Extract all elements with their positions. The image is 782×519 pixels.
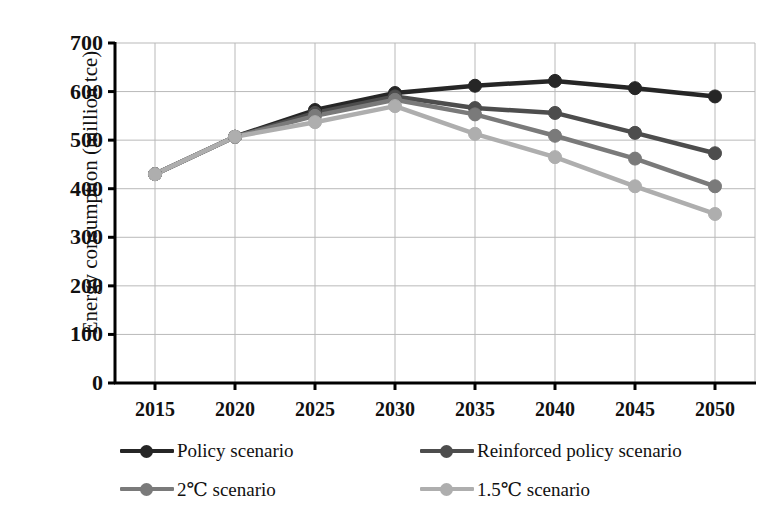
data-point <box>149 168 162 181</box>
legend-item[interactable]: Reinforced policy scenario <box>420 436 682 466</box>
data-point <box>709 180 722 193</box>
legend-label: 1.5℃ scenario <box>477 478 590 501</box>
data-point <box>629 82 642 95</box>
legend-item[interactable]: 1.5℃ scenario <box>420 474 590 504</box>
legend-marker-icon <box>140 445 153 458</box>
legend-marker-icon <box>440 445 453 458</box>
chart-legend: Policy scenarioReinforced policy scenari… <box>120 436 760 514</box>
legend-label: Reinforced policy scenario <box>477 440 682 462</box>
chart-figure: Energy consumption (million tce) 0100200… <box>0 0 782 519</box>
data-series-markers <box>149 74 722 220</box>
plot-area <box>0 0 782 430</box>
horizontal-gridlines <box>115 43 755 334</box>
legend-label: 2℃ scenario <box>177 478 276 501</box>
data-point <box>549 129 562 142</box>
vertical-gridlines <box>155 43 755 383</box>
data-point <box>549 106 562 119</box>
legend-marker-icon <box>440 483 453 496</box>
data-point <box>389 100 402 113</box>
legend-marker-icon <box>140 483 153 496</box>
data-point <box>629 126 642 139</box>
series-line-2 <box>155 100 715 186</box>
data-point <box>309 116 322 129</box>
legend-item[interactable]: 2℃ scenario <box>120 474 276 504</box>
data-point <box>229 130 242 143</box>
data-point <box>469 108 482 121</box>
data-point <box>469 79 482 92</box>
data-point <box>549 151 562 164</box>
data-point <box>629 152 642 165</box>
legend-swatch <box>120 478 174 500</box>
data-point <box>709 90 722 103</box>
data-point <box>549 74 562 87</box>
legend-label: Policy scenario <box>177 440 294 462</box>
data-series-lines <box>155 81 715 214</box>
legend-swatch <box>420 478 474 500</box>
data-point <box>709 207 722 220</box>
axis-lines <box>114 42 756 383</box>
legend-swatch <box>120 440 174 462</box>
data-point <box>469 127 482 140</box>
legend-item[interactable]: Policy scenario <box>120 436 294 466</box>
data-point <box>629 180 642 193</box>
axis-tick-marks <box>108 43 715 390</box>
legend-swatch <box>420 440 474 462</box>
data-point <box>709 147 722 160</box>
